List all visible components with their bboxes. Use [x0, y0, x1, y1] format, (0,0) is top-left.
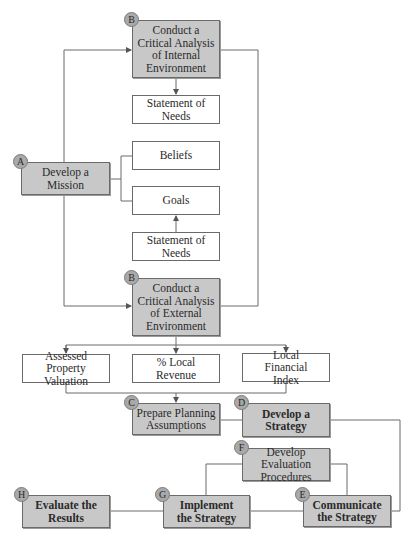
- statement-of-needs-bottom-box: Statement of Needs: [132, 232, 220, 261]
- evaluate-results-label: Evaluate the Results: [34, 499, 99, 524]
- local-financial-index-box: Local Financial Index: [242, 353, 330, 382]
- assessed-property-label: Assessed Property Valuation: [26, 350, 106, 388]
- statement-of-needs-bottom-label: Statement of Needs: [141, 234, 211, 259]
- external-analysis-label: Conduct a Critical Analysis of External …: [136, 282, 216, 332]
- internal-analysis-box: Conduct a Critical Analysis of Internal …: [132, 20, 220, 78]
- develop-mission-box: Develop a Mission: [21, 162, 110, 195]
- badge-h: H: [14, 487, 29, 502]
- external-analysis-box: Conduct a Critical Analysis of External …: [132, 278, 220, 336]
- develop-mission-label: Develop a Mission: [36, 166, 96, 191]
- connector-lines: [0, 0, 417, 536]
- assessed-property-box: Assessed Property Valuation: [22, 354, 110, 383]
- local-revenue-box: % Local Revenue: [132, 354, 220, 383]
- statement-of-needs-top-box: Statement of Needs: [132, 95, 220, 124]
- evaluation-procedures-box: Develop Evaluation Procedures: [242, 448, 330, 481]
- badge-f: F: [234, 440, 249, 455]
- local-revenue-label: % Local Revenue: [136, 356, 216, 381]
- implement-strategy-box: Implement the Strategy: [163, 495, 250, 528]
- develop-strategy-label: Develop a Strategy: [256, 408, 316, 433]
- goals-label: Goals: [163, 194, 190, 207]
- badge-g: G: [155, 487, 170, 502]
- evaluation-procedures-label: Develop Evaluation Procedures: [246, 446, 326, 484]
- goals-box: Goals: [132, 186, 220, 215]
- badge-b-internal: B: [124, 12, 139, 27]
- internal-analysis-label: Conduct a Critical Analysis of Internal …: [136, 24, 216, 74]
- badge-e: E: [295, 487, 310, 502]
- implement-strategy-label: Implement the Strategy: [172, 499, 242, 524]
- badge-b-external: B: [124, 270, 139, 285]
- strategic-planning-diagram: Develop a Mission A Conduct a Critical A…: [0, 0, 417, 536]
- communicate-strategy-box: Communicate the Strategy: [303, 495, 391, 527]
- develop-strategy-box: Develop a Strategy: [242, 403, 330, 437]
- local-financial-index-label: Local Financial Index: [251, 349, 321, 387]
- badge-c: C: [124, 395, 139, 410]
- badge-a: A: [13, 154, 28, 169]
- beliefs-box: Beliefs: [132, 141, 220, 170]
- planning-assumptions-label: Prepare Planning Assumptions: [136, 407, 216, 432]
- badge-d: D: [234, 395, 249, 410]
- communicate-strategy-label: Communicate the Strategy: [310, 499, 385, 524]
- beliefs-label: Beliefs: [160, 149, 193, 162]
- evaluate-results-box: Evaluate the Results: [22, 495, 110, 528]
- planning-assumptions-box: Prepare Planning Assumptions: [132, 403, 220, 435]
- statement-of-needs-top-label: Statement of Needs: [141, 97, 211, 122]
